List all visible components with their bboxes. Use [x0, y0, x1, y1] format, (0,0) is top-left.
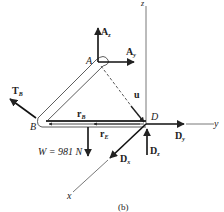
free-body-diagram	[0, 0, 224, 212]
u-arrow	[131, 106, 144, 122]
x-axis-label: x	[67, 191, 71, 201]
force-TB-label: TB	[12, 86, 23, 97]
pipe-segment-ab	[38, 57, 108, 123]
point-A-label: A	[86, 56, 92, 66]
point-D-label: D	[151, 112, 158, 122]
figure-caption: (b)	[118, 203, 129, 212]
vector-u-label: u	[134, 90, 140, 100]
force-Dy-label: Dy	[175, 131, 185, 142]
force-Dx-label: Dx	[120, 154, 130, 165]
force-Dx-arrow	[110, 124, 146, 158]
force-Ay-label: Ay	[126, 47, 136, 58]
x-axis	[73, 160, 108, 192]
pipe-segment-bd	[38, 118, 147, 127]
force-Az-label: Az	[101, 27, 111, 38]
weight-label: W = 981 N	[38, 147, 82, 157]
vector-rB-label: rB	[77, 109, 85, 120]
force-TB-arrow	[10, 99, 36, 118]
vector-rE-label: rE	[100, 129, 108, 140]
point-B-label: B	[30, 122, 36, 132]
z-axis-label: z	[141, 0, 144, 8]
y-axis-label: y	[214, 119, 218, 129]
force-Dz-label: Dz	[150, 146, 160, 157]
